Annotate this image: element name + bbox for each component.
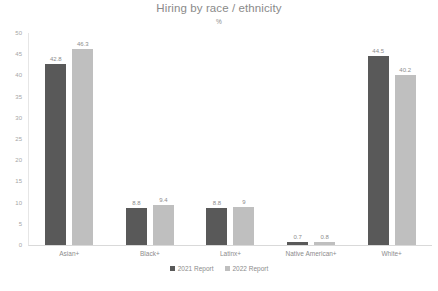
bar[interactable] xyxy=(233,207,254,245)
bar[interactable] xyxy=(368,56,389,245)
chart-title: Hiring by race / ethnicity xyxy=(0,2,438,14)
bar[interactable] xyxy=(287,242,308,245)
y-axis-tick: 50 xyxy=(15,30,22,36)
legend-item[interactable]: 2022 Report xyxy=(225,265,269,272)
bar-value-label: 46.3 xyxy=(63,41,103,47)
legend-swatch-icon xyxy=(170,266,175,271)
legend-label: 2022 Report xyxy=(233,265,269,272)
bar-group: 8.89 xyxy=(190,33,271,245)
y-axis-tick: 30 xyxy=(15,115,22,121)
bar[interactable] xyxy=(395,75,416,245)
bar-value-label: 42.8 xyxy=(36,56,76,62)
x-axis-label: White+ xyxy=(337,250,438,257)
bar[interactable] xyxy=(153,205,174,245)
chart-legend: 2021 Report2022 Report xyxy=(0,265,438,272)
bar-group: 0.70.8 xyxy=(271,33,352,245)
y-axis-tick: 25 xyxy=(15,136,22,142)
bar-group: 8.89.4 xyxy=(110,33,191,245)
y-axis-tick: 20 xyxy=(15,157,22,163)
y-axis-tick: 45 xyxy=(15,51,22,57)
bar[interactable] xyxy=(314,242,335,245)
y-axis-tick: 40 xyxy=(15,72,22,78)
bar-value-label: 44.5 xyxy=(358,48,398,54)
x-axis-categories: Asian+Black+Latinx+Native American+White… xyxy=(29,250,432,264)
chart-subtitle: % xyxy=(0,18,438,25)
bars-layer: 42.846.38.89.48.890.70.844.540.2 xyxy=(29,33,432,245)
bar[interactable] xyxy=(72,49,93,245)
y-axis-tick: 35 xyxy=(15,94,22,100)
bar[interactable] xyxy=(206,208,227,245)
y-axis-tick: 5 xyxy=(19,221,22,227)
y-axis-tick: 0 xyxy=(19,242,22,248)
bar-value-label: 9 xyxy=(224,199,264,205)
legend-label: 2021 Report xyxy=(178,265,214,272)
y-axis-tick: 15 xyxy=(15,178,22,184)
bar[interactable] xyxy=(45,64,66,245)
y-axis: 50454035302520151050 xyxy=(0,33,26,246)
bar-value-label: 40.2 xyxy=(385,67,425,73)
bar[interactable] xyxy=(126,208,147,245)
bar-value-label: 9.4 xyxy=(143,197,183,203)
legend-swatch-icon xyxy=(225,266,230,271)
bar-group: 44.540.2 xyxy=(351,33,432,245)
bar-group: 42.846.3 xyxy=(29,33,110,245)
legend-item[interactable]: 2021 Report xyxy=(170,265,214,272)
y-axis-tick: 10 xyxy=(15,200,22,206)
bar-value-label: 0.8 xyxy=(305,234,345,240)
bar-chart: Hiring by race / ethnicity % 50454035302… xyxy=(0,0,438,291)
